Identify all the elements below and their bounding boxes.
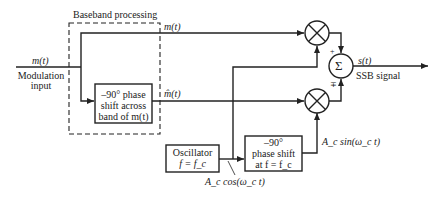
lower-multiplier bbox=[305, 89, 329, 113]
lower-path-label: m̂(t) bbox=[164, 88, 181, 99]
summer-top-sign: + bbox=[330, 46, 335, 57]
upper-path-wire bbox=[81, 33, 304, 67]
input-signal-label: m(t) bbox=[32, 55, 49, 66]
carrier-phase-text-3: at f = f_c bbox=[245, 159, 302, 170]
hilbert-text-1: –90° phase bbox=[95, 89, 152, 100]
output-label: SSB signal bbox=[356, 70, 400, 81]
input-label-line2: input bbox=[15, 80, 67, 91]
cos-carrier-label: A_c cos(ω_c t) bbox=[205, 176, 265, 187]
carrier-phase-text-2: phase shift bbox=[245, 148, 302, 159]
cos-leader bbox=[228, 161, 235, 175]
sin-carrier-wire bbox=[302, 113, 317, 153]
carrier-phase-text-1: –90° bbox=[245, 137, 302, 148]
upper-path-label: m(t) bbox=[164, 21, 181, 32]
hilbert-text-2: shift across bbox=[95, 100, 152, 111]
summer-bottom-sign: ∓ bbox=[330, 79, 337, 90]
upper-multiplier bbox=[305, 21, 329, 45]
summer-symbol: Σ bbox=[335, 59, 343, 73]
sin-carrier-label: A_c sin(ω_c t) bbox=[322, 136, 380, 147]
oscillator-text-1: Oscillator bbox=[166, 147, 219, 158]
diagram-canvas bbox=[0, 0, 440, 197]
output-signal-label: s(t) bbox=[358, 55, 371, 66]
baseband-label: Baseband processing bbox=[73, 9, 157, 20]
hilbert-input-wire bbox=[81, 67, 94, 101]
hilbert-text-3: band of m(t) bbox=[95, 111, 152, 122]
oscillator-text-2: f = f_c bbox=[166, 158, 219, 169]
